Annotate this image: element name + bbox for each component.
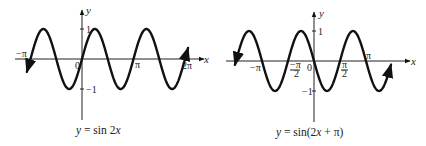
caption-sin-2x: y = sin 2x (75, 124, 121, 137)
x-tick-label-pi: π (135, 59, 140, 70)
x-tick-label-pi: π (366, 50, 371, 61)
x-tick-label-2pi: 2π (182, 60, 192, 71)
y-tick-label-1: 1 (318, 26, 323, 37)
x-tick-label-neg-pi: −π (250, 62, 261, 73)
y-tick-label-neg1: −1 (86, 84, 97, 95)
caption-sin-2x-plus-pi: y = sin(2x + π) (275, 126, 344, 139)
origin-label: 0 (75, 60, 80, 71)
x-tick-label-pi-over-2-den: 2 (342, 68, 347, 79)
y-axis-label: y (318, 7, 324, 19)
x-axis-label: x (203, 53, 209, 65)
graph-sin-2x: y x 1 −1 0 −π π 2π y = sin 2x (15, 4, 209, 137)
origin-label: 0 (307, 62, 312, 73)
x-tick-label-neg-pi-over-2-den: 2 (294, 68, 299, 79)
graph-sin-2x-plus-pi: y x 1 −1 0 −π −π 2 π 2 π y = sin(2x + π) (226, 7, 416, 139)
chart-canvas: y x 1 −1 0 −π π 2π y = sin 2x y x 1 −1 0… (0, 0, 426, 146)
x-axis-label: x (410, 55, 416, 67)
x-tick-label-neg-pi: −π (16, 48, 27, 59)
y-tick-label-1: 1 (86, 24, 91, 35)
y-tick-label-neg1: −1 (302, 86, 313, 97)
y-axis-label: y (85, 4, 91, 16)
